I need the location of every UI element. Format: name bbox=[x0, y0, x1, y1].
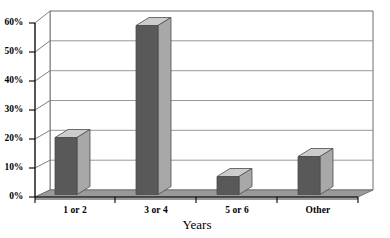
chart-plot-area bbox=[0, 0, 390, 238]
bar-other[interactable] bbox=[298, 149, 333, 195]
bar-side-face bbox=[320, 149, 333, 195]
x-tick-label-3-or-4: 3 or 4 bbox=[116, 205, 196, 215]
chart-left-wall bbox=[35, 11, 50, 197]
x-tick-label-5-or-6: 5 or 6 bbox=[197, 205, 277, 215]
x-axis-title: Years bbox=[137, 217, 257, 233]
y-tick-label-30: 30% bbox=[0, 104, 23, 114]
x-tick-label-other: Other bbox=[278, 205, 358, 215]
y-axis-ticks bbox=[29, 23, 35, 197]
y-tick-label-20: 20% bbox=[0, 133, 23, 143]
bar-front-face bbox=[136, 26, 158, 195]
y-tick-label-10: 10% bbox=[0, 162, 23, 172]
bar-side-face bbox=[158, 18, 171, 195]
bar-front-face bbox=[298, 157, 320, 195]
bar-chart: 60% 50% 40% 30% 20% 10% 0% 1 or 2 3 or 4… bbox=[0, 0, 390, 238]
y-tick-label-0: 0% bbox=[0, 191, 23, 201]
bar-1-or-2[interactable] bbox=[55, 130, 90, 195]
y-tick-label-60: 60% bbox=[0, 17, 23, 27]
x-tick-label-1-or-2: 1 or 2 bbox=[35, 205, 115, 215]
bar-3-or-4[interactable] bbox=[136, 18, 171, 195]
bar-front-face bbox=[55, 138, 77, 195]
bar-side-face bbox=[77, 130, 90, 195]
y-tick-label-50: 50% bbox=[0, 46, 23, 56]
bar-front-face bbox=[217, 177, 239, 195]
y-tick-label-40: 40% bbox=[0, 75, 23, 85]
